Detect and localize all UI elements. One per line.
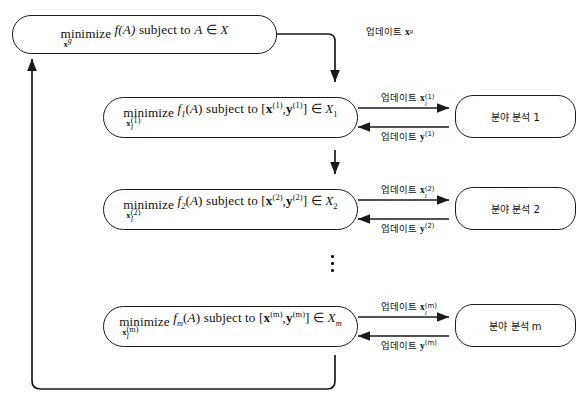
diagram-canvas: minimize xg f(A) subject to A ∈ X 업데이트 x…	[0, 0, 586, 405]
vector-y-m: y	[286, 310, 293, 325]
label-update-in-m-sup: (m)	[425, 339, 437, 347]
label-update-out-2-prefix: 업데이트	[381, 184, 417, 195]
vector-x-2: x	[266, 193, 273, 208]
label-update-in-2: 업데이트 y(2)	[381, 224, 435, 234]
subproblem-node-m[interactable]: minimize x(m)l fm(A) subject to [x(m),y(…	[103, 306, 358, 347]
vector-y-sup-m: (m)	[293, 310, 305, 319]
feasible-set-global: X	[220, 22, 228, 37]
objective-arg-2: A	[190, 193, 198, 208]
minimize-subscript-global: xg	[64, 41, 73, 49]
connector-1: subject to	[206, 101, 258, 116]
global-problem-node[interactable]: minimize xg f(A) subject to A ∈ X	[12, 15, 277, 54]
objective-arg-m: A	[188, 310, 196, 325]
subproblem-node-1[interactable]: minimize x(1)l f1(A) subject to [x(1),y(…	[103, 97, 358, 138]
minimize-subscript-2: x(2)l	[126, 212, 140, 228]
label-update-in-1: 업데이트 y(1)	[381, 132, 435, 142]
global-problem-expression: minimize xg f(A) subject to A ∈ X	[61, 23, 229, 46]
label-update-out-m: 업데이트 x(m)l	[381, 302, 437, 319]
vector-x-1: x	[266, 101, 273, 116]
minimize-operator-global: minimize xg	[61, 27, 112, 50]
label-update-out-1-prefix: 업데이트	[381, 92, 417, 103]
label-update-in-2-sup: (2)	[425, 222, 435, 230]
subproblem-expression-m: minimize x(m)l fm(A) subject to [x(m),y(…	[119, 311, 342, 342]
minimize-subscript-1: x(1)l	[126, 120, 140, 136]
vector-x-sup-2: (2)	[273, 193, 283, 202]
vector-x-sup-m: (m)	[270, 310, 282, 319]
label-update-out-m-prefix: 업데이트	[381, 301, 417, 312]
analysis-node-2[interactable]: 분야 분석 2	[455, 187, 576, 230]
feasible-set-m: X	[328, 310, 336, 325]
connector-m: subject to	[204, 310, 256, 325]
minimize-operator-2: minimize x(2)l	[123, 198, 174, 229]
analysis-label-m: 분야 분석 m	[489, 318, 541, 333]
label-update-global-prefix: 업데이트	[366, 26, 402, 37]
objective-arg-global: A	[123, 22, 131, 37]
label-update-global: 업데이트 xg	[366, 27, 413, 37]
member-symbol-global: ∈	[206, 22, 217, 37]
vector-x-sup-1: (1)	[273, 101, 283, 110]
objective-close-global: )	[131, 22, 136, 37]
label-update-out-m-sub: l	[425, 310, 427, 317]
member-left-global: A	[194, 22, 202, 37]
objective-arg-1: A	[190, 101, 198, 116]
minimize-operator-m: minimize x(m)l	[119, 315, 170, 346]
feasible-set-sub-2: 2	[333, 202, 337, 211]
connector-global: subject to	[139, 22, 191, 37]
wire-global-to-sub1	[277, 34, 335, 82]
vertical-ellipsis-icon	[331, 255, 334, 272]
objective-index-m: m	[177, 319, 183, 328]
minimize-operator-1: minimize x(1)l	[123, 106, 174, 137]
label-update-out-1-sub: l	[425, 101, 427, 108]
label-update-global-sub: g	[410, 28, 414, 35]
analysis-node-m[interactable]: 분야 분석 m	[455, 304, 576, 347]
objective-f-global: f(	[115, 22, 123, 37]
analysis-label-1: 분야 분석 1	[491, 109, 540, 124]
vector-y-1: y	[286, 101, 293, 116]
label-update-in-1-prefix: 업데이트	[381, 131, 417, 142]
subproblem-expression-2: minimize x(2)l f2(A) subject to [x(2),y(…	[123, 194, 337, 225]
vector-y-sup-2: (2)	[293, 193, 303, 202]
objective-index-2: 2	[181, 202, 185, 211]
subproblem-node-2[interactable]: minimize x(2)l f2(A) subject to [x(2),y(…	[103, 189, 358, 230]
vector-y-2: y	[286, 193, 293, 208]
analysis-node-1[interactable]: 분야 분석 1	[455, 95, 576, 138]
label-update-in-m-prefix: 업데이트	[381, 340, 417, 351]
feasible-set-sub-m: m	[336, 319, 342, 328]
subproblem-expression-1: minimize x(1)l f1(A) subject to [x(1),y(…	[123, 102, 337, 133]
minimize-subscript-m: x(m)l	[122, 329, 138, 345]
analysis-label-2: 분야 분석 2	[491, 201, 540, 216]
label-update-out-1: 업데이트 x(1)l	[381, 93, 435, 110]
objective-index-1: 1	[181, 110, 185, 119]
label-update-out-2: 업데이트 x(2)l	[381, 185, 435, 202]
vector-y-sup-1: (1)	[293, 101, 303, 110]
member-symbol-1: ∈	[311, 101, 322, 116]
feasible-set-sub-1: 1	[333, 110, 337, 119]
connector-2: subject to	[206, 193, 258, 208]
member-symbol-m: ∈	[313, 310, 324, 325]
label-update-in-1-sup: (1)	[425, 130, 435, 138]
label-update-in-2-prefix: 업데이트	[381, 223, 417, 234]
member-symbol-2: ∈	[311, 193, 322, 208]
label-update-in-m: 업데이트 y(m)	[381, 341, 437, 351]
label-update-out-2-sub: l	[425, 193, 427, 200]
